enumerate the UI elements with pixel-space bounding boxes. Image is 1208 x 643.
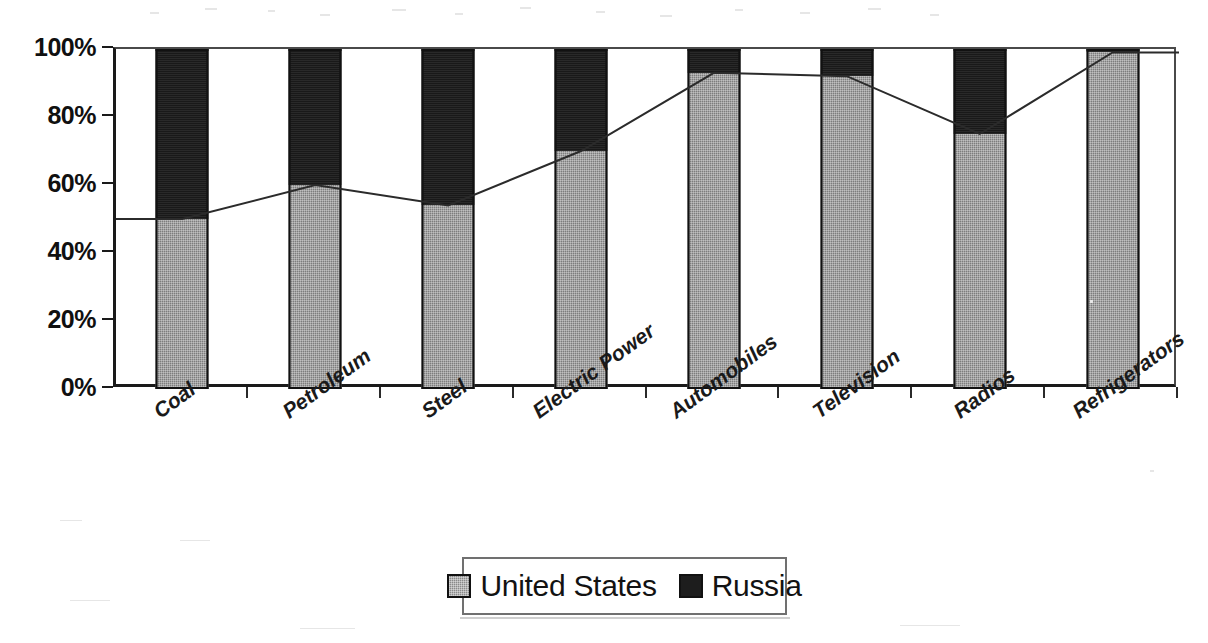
y-axis-tick-mark — [102, 250, 113, 252]
scan-noise-artifact — [300, 628, 355, 629]
x-axis-tick-mark — [1043, 387, 1045, 398]
scan-noise-artifact — [60, 520, 82, 521]
y-axis-tick-mark — [102, 182, 113, 184]
y-axis-tick-mark — [102, 386, 113, 388]
x-axis-category-label: Electric Power — [528, 319, 659, 423]
scan-noise-artifact — [392, 9, 406, 11]
scan-noise-artifact — [900, 625, 960, 626]
x-axis-tick-mark — [246, 387, 248, 398]
scan-noise-artifact — [596, 11, 605, 13]
russia-swatch-icon — [679, 574, 703, 598]
scan-noise-artifact — [660, 15, 672, 17]
scan-noise-artifact — [320, 14, 330, 16]
x-axis-tick-mark — [512, 387, 514, 398]
scan-noise-artifact — [1150, 470, 1154, 472]
scan-noise-artifact — [520, 7, 531, 9]
x-axis-labels: CoalPetroleumSteelElectric PowerAutomobi… — [0, 0, 1208, 643]
y-axis-tick-mark — [102, 46, 113, 48]
united-states-swatch-icon — [447, 574, 471, 598]
scan-noise-artifact — [455, 13, 463, 15]
x-axis-tick-mark — [910, 387, 912, 398]
x-axis-category-label: Refrigerators — [1068, 326, 1189, 423]
legend-label-united-states: United States — [480, 569, 656, 603]
chart-legend: United States Russia — [462, 557, 787, 615]
chart-canvas: 100%80%60%40%20%0% CoalPetroleumSteelEle… — [0, 0, 1208, 643]
scan-noise-artifact — [205, 8, 217, 10]
y-axis-tick-mark — [102, 114, 113, 116]
legend-item-russia: Russia — [679, 569, 802, 603]
scan-noise-artifact — [180, 540, 210, 541]
x-axis-category-label: Radios — [949, 363, 1020, 424]
scan-noise-artifact — [268, 10, 275, 12]
scan-noise-artifact — [735, 9, 743, 11]
scan-noise-artifact — [150, 12, 159, 14]
x-axis-category-label: Television — [808, 344, 905, 423]
x-axis-category-label: Coal — [149, 377, 200, 423]
scan-noise-artifact — [800, 12, 810, 14]
scan-noise-artifact — [1090, 300, 1093, 303]
scan-noise-artifact — [868, 8, 881, 10]
legend-item-united-states: United States — [447, 569, 656, 603]
x-axis-tick-mark — [1176, 387, 1178, 398]
scan-noise-artifact — [70, 600, 110, 601]
x-axis-tick-mark — [777, 387, 779, 398]
x-axis-tick-mark — [379, 387, 381, 398]
x-axis-category-label: Automobiles — [665, 329, 782, 423]
x-axis-tick-mark — [645, 387, 647, 398]
x-axis-category-label: Steel — [417, 374, 472, 423]
scan-noise-artifact — [930, 14, 939, 16]
y-axis-tick-mark — [102, 318, 113, 320]
x-axis-category-label: Petroleum — [278, 344, 375, 424]
legend-scan-artifact — [460, 617, 790, 619]
legend-label-russia: Russia — [712, 569, 802, 603]
